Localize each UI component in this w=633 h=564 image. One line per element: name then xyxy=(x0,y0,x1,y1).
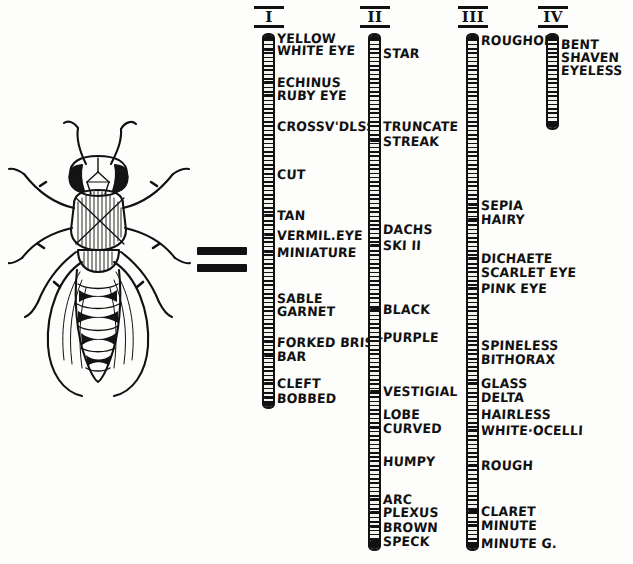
locus-tick xyxy=(370,540,381,543)
locus-marker: PURPLE xyxy=(370,330,439,344)
locus-tick xyxy=(468,429,479,432)
locus-tick xyxy=(468,271,479,274)
locus-label: DELTA xyxy=(481,389,525,405)
locus-label: CROSSV'DLSS xyxy=(277,118,376,134)
locus-tick xyxy=(370,308,381,311)
locus-marker: HUMPY xyxy=(370,454,435,468)
locus-tick xyxy=(264,81,275,84)
locus-marker: PLEXUS xyxy=(370,505,439,519)
locus-tick xyxy=(468,218,479,221)
locus-marker: BAR xyxy=(264,349,306,363)
locus-tick xyxy=(370,526,381,529)
locus-marker: TAN xyxy=(264,208,305,222)
locus-marker: STREAK xyxy=(370,134,439,148)
locus-marker: WHITE·OCELLI xyxy=(468,423,583,437)
locus-tick xyxy=(370,228,381,231)
locus-marker: VESTIGIAL xyxy=(370,384,458,398)
locus-marker: SEPIA xyxy=(468,198,523,212)
locus-label: SKI II xyxy=(383,237,422,253)
locus-tick xyxy=(468,464,479,467)
locus-label: SPINELESS xyxy=(481,337,559,353)
locus-tick xyxy=(264,234,275,237)
locus-tick xyxy=(468,358,479,361)
locus-label: HAIRY xyxy=(481,211,526,227)
locus-tick xyxy=(370,390,381,393)
locus-marker: CUT xyxy=(264,167,305,181)
figure-canvas: IYELLOWWHITE EYEECHINUSRUBY EYECROSSV'DL… xyxy=(0,0,633,564)
locus-label: CLARET xyxy=(481,503,537,519)
locus-label: DACHS xyxy=(383,221,434,237)
locus-label: PLEXUS xyxy=(383,504,439,520)
locus-marker: DACHS xyxy=(370,222,433,236)
locus-label: EYELESS xyxy=(561,62,623,78)
locus-tick xyxy=(370,244,381,247)
locus-label: CUT xyxy=(277,166,306,182)
locus-marker: STAR xyxy=(370,46,420,60)
locus-tick xyxy=(468,542,479,545)
locus-label: VESTIGIAL xyxy=(383,383,459,399)
locus-label: VERMIL.EYE xyxy=(277,227,364,243)
locus-marker: HAIRLESS xyxy=(468,407,551,421)
locus-tick xyxy=(264,214,275,217)
chromosome-numeral-i: I xyxy=(252,6,286,28)
locus-marker: VERMIL.EYE xyxy=(264,228,363,242)
locus-marker: PINK EYE xyxy=(468,281,547,295)
locus-label: DICHAETE xyxy=(481,250,553,266)
locus-label: WHITE·OCELLI xyxy=(481,422,584,438)
drosophila-fly-illustration xyxy=(8,112,198,412)
locus-tick xyxy=(370,140,381,143)
locus-tick xyxy=(548,43,559,46)
locus-tick xyxy=(370,413,381,416)
locus-tick xyxy=(264,297,275,300)
locus-marker: FORKED BRIST xyxy=(264,335,382,349)
locus-tick xyxy=(468,344,479,347)
locus-label: CLEFT xyxy=(277,375,322,391)
locus-marker: DELTA xyxy=(468,390,524,404)
locus-label: BLACK xyxy=(383,301,431,317)
locus-tick xyxy=(264,382,275,385)
locus-marker: SCARLET EYE xyxy=(468,265,576,279)
locus-label: GLASS xyxy=(481,375,528,391)
locus-marker: RUBY EYE xyxy=(264,88,347,102)
locus-tick xyxy=(468,510,479,513)
locus-label: GARNET xyxy=(277,303,336,319)
locus-marker: TRUNCATE xyxy=(370,119,458,133)
locus-tick xyxy=(264,49,275,52)
locus-marker: GARNET xyxy=(264,304,335,318)
locus-marker: WHITE EYE xyxy=(264,43,355,57)
chromosome-cap-top xyxy=(369,34,380,41)
locus-label: BITHORAX xyxy=(481,351,556,367)
locus-tick xyxy=(370,125,381,128)
locus-tick xyxy=(370,52,381,55)
locus-tick xyxy=(468,257,479,260)
locus-tick xyxy=(264,94,275,97)
locus-marker: CURVED xyxy=(370,421,442,435)
locus-tick xyxy=(370,460,381,463)
numeral-text: I xyxy=(265,8,273,26)
chromosome-bar-ii xyxy=(368,33,381,551)
locus-label: STREAK xyxy=(383,133,440,149)
locus-marker: SPINELESS xyxy=(468,338,559,352)
equals-bar-top xyxy=(197,247,247,255)
chromosome-band-pattern xyxy=(370,35,379,549)
chromosome-numeral-iii: III xyxy=(456,6,490,28)
locus-tick xyxy=(370,427,381,430)
numeral-text: II xyxy=(367,8,382,26)
locus-label: FORKED BRIST xyxy=(277,334,383,350)
locus-label: LOBE xyxy=(383,406,421,422)
locus-label: SCARLET EYE xyxy=(481,264,577,280)
locus-tick xyxy=(264,173,275,176)
locus-tick xyxy=(370,511,381,514)
locus-label: BROWN xyxy=(383,519,439,535)
locus-label: ROUGH xyxy=(481,457,534,473)
locus-label: SPECK xyxy=(383,533,430,549)
locus-label: TAN xyxy=(277,207,306,223)
locus-marker: ROUGH xyxy=(468,458,533,472)
locus-marker: CLEFT xyxy=(264,376,321,390)
locus-label: CURVED xyxy=(383,420,443,436)
locus-marker: HAIRY xyxy=(468,212,525,226)
locus-tick xyxy=(264,397,275,400)
locus-tick xyxy=(264,341,275,344)
locus-tick xyxy=(370,336,381,339)
locus-label: HAIRLESS xyxy=(481,406,552,422)
